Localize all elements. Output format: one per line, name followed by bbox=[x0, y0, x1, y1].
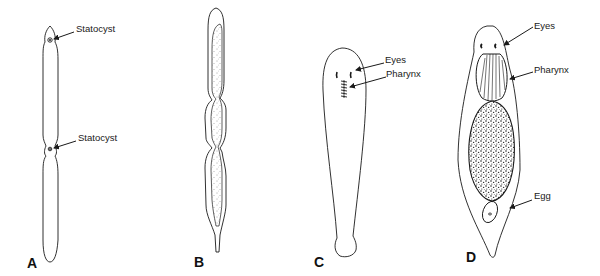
panel-letter-c: C bbox=[314, 254, 324, 270]
panel-d-pharynx bbox=[476, 54, 507, 101]
panel-letter-b: B bbox=[194, 254, 204, 270]
label-d-pharynx: Pharynx bbox=[534, 64, 569, 75]
panel-letter-a: A bbox=[27, 255, 37, 271]
panel-b-drawing bbox=[205, 8, 226, 252]
panel-a-lower-zooid-outline bbox=[43, 146, 58, 262]
label-d-eyes: Eyes bbox=[534, 20, 555, 31]
panel-d-eye-left bbox=[481, 44, 482, 48]
panel-c-body-outline bbox=[323, 48, 366, 257]
panel-c-eye-left bbox=[337, 72, 338, 78]
label-statocyst-lower: Statocyst bbox=[78, 132, 117, 143]
panel-c-eye-right bbox=[351, 72, 352, 78]
panel-d-eye-right bbox=[495, 44, 496, 48]
panel-letter-d: D bbox=[466, 249, 476, 265]
label-c-eyes: Eyes bbox=[385, 54, 406, 65]
label-statocyst-upper: Statocyst bbox=[76, 23, 115, 34]
panel-a-upper-zooid-outline bbox=[43, 26, 58, 146]
label-c-pharynx: Pharynx bbox=[386, 68, 421, 79]
panel-a-drawing bbox=[43, 26, 76, 262]
panel-c-drawing bbox=[323, 48, 386, 257]
panel-d-gut-stippled bbox=[469, 101, 515, 201]
panel-d-egg bbox=[480, 199, 501, 224]
label-d-egg: Egg bbox=[534, 190, 551, 201]
panel-d-drawing bbox=[458, 26, 533, 257]
panel-c-pharynx bbox=[341, 80, 347, 98]
panel-b-gut-stippled bbox=[211, 24, 222, 226]
